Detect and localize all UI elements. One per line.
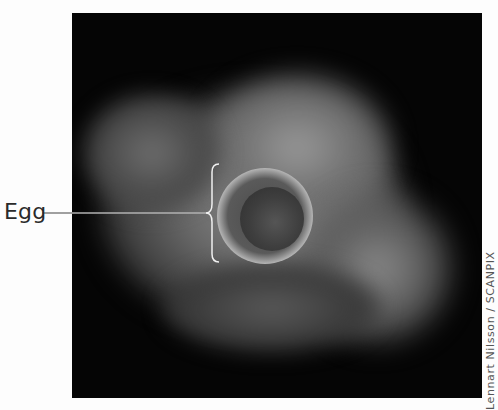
label-leader — [0, 0, 498, 410]
photo-credit: Lennart Nilsson / SCANPIX — [484, 251, 497, 410]
brace-icon — [206, 164, 219, 262]
egg-label: Egg — [4, 199, 46, 224]
